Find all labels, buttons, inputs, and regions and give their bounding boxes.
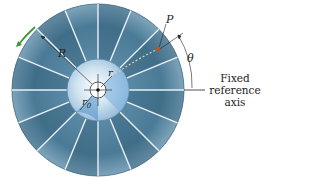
label-R: R (58, 47, 66, 60)
label-P: P (166, 13, 173, 26)
label-r0-sub: 0 (87, 102, 91, 110)
label-r0: r0 (82, 96, 91, 110)
axis-label-line3: axis (205, 96, 265, 108)
fixed-reference-axis-label: Fixed reference axis (205, 72, 265, 108)
hub (67, 59, 129, 121)
label-r: r (108, 67, 113, 78)
axis-label-line2: reference (205, 84, 265, 96)
axis-label-line1: Fixed (205, 72, 265, 84)
label-theta: θ (187, 52, 194, 65)
